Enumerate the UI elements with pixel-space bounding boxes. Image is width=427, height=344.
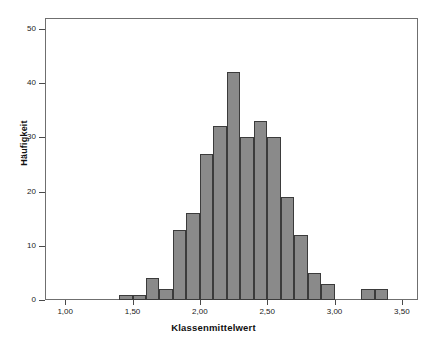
bar-series: [0, 0, 427, 344]
histogram-bar: [375, 289, 388, 300]
histogram-bar: [227, 72, 240, 300]
histogram-chart: Häufigkeit 01020304050 1,001,502,002,503…: [0, 0, 427, 344]
histogram-bar: [240, 137, 253, 300]
histogram-bar: [146, 278, 159, 300]
histogram-bar: [200, 154, 213, 300]
histogram-bar: [119, 295, 132, 300]
histogram-bar: [321, 284, 334, 300]
histogram-bar: [254, 121, 267, 300]
x-axis-title: Klassenmittelwert: [0, 322, 427, 333]
histogram-bar: [361, 289, 374, 300]
histogram-bar: [159, 289, 172, 300]
histogram-bar: [294, 235, 307, 300]
histogram-bar: [308, 273, 321, 300]
histogram-bar: [267, 137, 280, 300]
histogram-bar: [173, 230, 186, 301]
histogram-bar: [281, 197, 294, 300]
histogram-bar: [186, 213, 199, 300]
histogram-bar: [213, 126, 226, 300]
histogram-bar: [133, 295, 146, 300]
